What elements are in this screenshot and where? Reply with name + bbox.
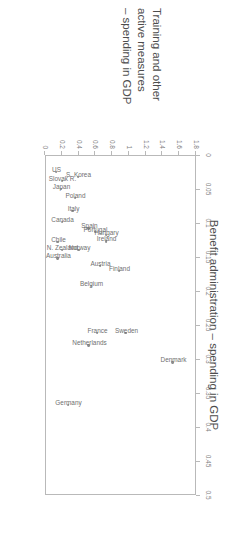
- data-point-label: Belgium: [80, 280, 103, 287]
- data-point-label: France: [88, 327, 108, 334]
- data-point-label: Canada: [51, 216, 73, 223]
- data-point-label: Austria: [91, 260, 111, 267]
- data-point-label: Poland: [66, 192, 86, 199]
- x-axis-tick-label: 0.25: [205, 319, 212, 332]
- x-axis-tick-label: 0.4: [205, 422, 212, 431]
- data-point-label: Slovak R.: [49, 175, 76, 182]
- y-axis-title-line-1: Training and other: [149, 8, 164, 143]
- x-axis-tick: [196, 223, 200, 224]
- x-axis-tick: [196, 189, 200, 190]
- y-axis-tick: [161, 151, 162, 155]
- x-axis-tick: [196, 155, 200, 156]
- x-axis-tick-label: 0.05: [205, 183, 212, 196]
- x-axis-tick: [196, 291, 200, 292]
- x-axis-tick: [196, 393, 200, 394]
- y-axis-tick-label: 0.8: [109, 125, 116, 149]
- y-axis-tick-label: 1.4: [159, 125, 166, 149]
- x-axis-tick-label: 0.5: [205, 490, 212, 499]
- data-point-label: Sweden: [114, 327, 137, 334]
- x-axis-tick-label: 0: [205, 153, 212, 157]
- x-axis-tick-label: 0.45: [205, 455, 212, 468]
- data-point-label: Japan: [53, 183, 70, 190]
- data-point-label: Italy: [67, 205, 79, 212]
- y-axis-tick: [128, 151, 129, 155]
- y-axis-tick-label: 1: [125, 125, 132, 149]
- x-axis-tick-label: 0.2: [205, 286, 212, 295]
- y-axis-tick-label: 1.6: [176, 125, 183, 149]
- chart-canvas: Benefit administration – spending in GDP…: [0, 0, 228, 536]
- y-axis-tick: [78, 151, 79, 155]
- data-point-label: Ireland: [97, 235, 117, 242]
- x-axis-tick-label: 0.15: [205, 251, 212, 264]
- data-point-label: Netherlands: [72, 339, 106, 346]
- y-axis-tick-label: 1.2: [142, 125, 149, 149]
- x-axis-tick: [196, 461, 200, 462]
- x-axis-tick: [196, 257, 200, 258]
- data-point-label: Denmark: [160, 356, 186, 363]
- y-axis-tick: [94, 151, 95, 155]
- x-axis-tick-labels: 00.050.10.150.20.250.30.350.40.450.5: [196, 0, 228, 536]
- data-point-label: US: [52, 166, 61, 173]
- x-axis-tick-label: 0.1: [205, 218, 212, 227]
- y-axis-tick-label: 0.4: [75, 125, 82, 149]
- x-axis-tick: [196, 325, 200, 326]
- x-axis-tick: [196, 359, 200, 360]
- y-axis-tick: [145, 151, 146, 155]
- y-axis-title-line-3: – spending in GDP: [119, 8, 134, 143]
- y-axis-tick: [195, 151, 196, 155]
- data-point-label: Australia: [46, 252, 71, 259]
- data-point-label: Finland: [109, 265, 130, 272]
- y-axis-tick-label: 1.8: [193, 125, 200, 149]
- x-axis-tick-label: 0.3: [205, 354, 212, 363]
- data-point-label: Germany: [56, 399, 82, 406]
- x-axis-tick: [196, 427, 200, 428]
- data-point-label: Norway: [68, 244, 90, 251]
- y-axis-tick: [61, 151, 62, 155]
- x-axis-tick-label: 0.35: [205, 387, 212, 400]
- y-axis-title-line-2: active measures: [134, 8, 149, 143]
- x-axis-tick: [196, 495, 200, 496]
- scatter-plot-figure: Benefit administration – spending in GDP…: [0, 0, 228, 536]
- y-axis-title: Training and other active measures – spe…: [119, 8, 164, 143]
- y-axis-tick-label: 0.2: [58, 125, 65, 149]
- y-axis-tick-label: 0: [42, 125, 49, 149]
- data-point-label: Chile: [51, 236, 66, 243]
- y-axis-tick: [178, 151, 179, 155]
- y-axis-tick: [111, 151, 112, 155]
- y-axis-tick-label: 0.6: [92, 125, 99, 149]
- y-axis-tick: [44, 151, 45, 155]
